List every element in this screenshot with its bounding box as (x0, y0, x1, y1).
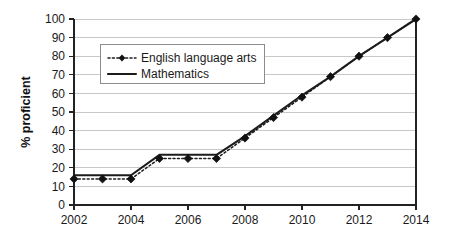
legend-label-english-language-arts: English language arts (141, 51, 256, 65)
x-tick-label-2010: 2010 (289, 213, 316, 227)
y-tick-label-80: 80 (52, 49, 66, 63)
x-tick-label-2006: 2006 (175, 213, 202, 227)
y-tick-label-100: 100 (45, 12, 65, 26)
y-tick-label-10: 10 (52, 180, 66, 194)
x-tick-label-2002: 2002 (61, 213, 88, 227)
y-tick-label-0: 0 (58, 198, 65, 212)
chart-canvas: 0102030405060708090100 20022004200620082… (0, 0, 449, 244)
x-tick-label-2012: 2012 (346, 213, 373, 227)
legend-label-mathematics: Mathematics (141, 67, 209, 81)
y-tick-label-20: 20 (52, 161, 66, 175)
y-tick-label-40: 40 (52, 124, 66, 138)
x-tick-label-2014: 2014 (403, 213, 430, 227)
legend: English language arts Mathematics (101, 45, 265, 84)
y-tick-label-60: 60 (52, 87, 66, 101)
y-tick-label-50: 50 (52, 105, 66, 119)
y-tick-label-30: 30 (52, 142, 66, 156)
y-tick-label-70: 70 (52, 68, 66, 82)
x-tick-label-2008: 2008 (232, 213, 259, 227)
proficiency-line-chart: 0102030405060708090100 20022004200620082… (0, 0, 449, 244)
y-tick-label-90: 90 (52, 31, 66, 45)
y-axis-title: % proficient (19, 75, 33, 147)
x-tick-label-2004: 2004 (118, 213, 145, 227)
chart-background (0, 0, 449, 244)
